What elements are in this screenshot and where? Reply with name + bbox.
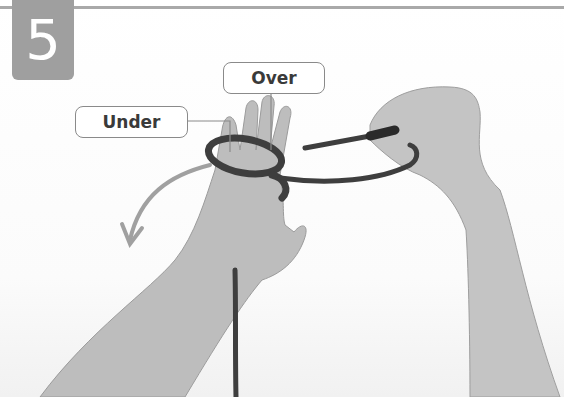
- callout-over-label: Over: [223, 62, 325, 94]
- instruction-panel: 5 Over Under: [0, 0, 564, 397]
- step-number-badge: 5: [12, 0, 74, 80]
- callout-under-label: Under: [75, 106, 188, 138]
- right-hand-illustration: [370, 87, 560, 397]
- knot-illustration: [0, 0, 564, 397]
- left-hand-illustration: [40, 96, 306, 397]
